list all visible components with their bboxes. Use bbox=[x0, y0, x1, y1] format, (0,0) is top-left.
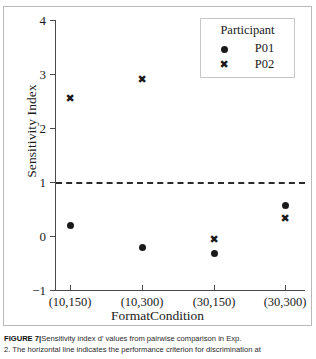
legend-entry-p01: P01 bbox=[205, 40, 290, 56]
caption-figure-number: FIGURE 7 bbox=[4, 334, 39, 343]
y-tick-mark-1 bbox=[50, 182, 55, 183]
x-tick-label-2: (10,300) bbox=[102, 295, 182, 309]
x-tick-label-4: (30,300) bbox=[245, 295, 316, 309]
y-axis-title: Sensitivity Index bbox=[24, 41, 40, 221]
x-axis-title: FormatCondition bbox=[3, 308, 312, 324]
legend: Participant P01 ✖ P02 bbox=[200, 18, 295, 78]
data-point-p02-c1: ✖ bbox=[66, 94, 75, 103]
y-tick-label-4: 4 bbox=[20, 14, 46, 27]
y-tick-mark-2 bbox=[50, 128, 55, 129]
x-axis-line bbox=[55, 290, 305, 291]
performance-criterion-line bbox=[56, 182, 305, 184]
data-point-p01-c3 bbox=[211, 250, 218, 257]
x-tick-label-3: (30,150) bbox=[174, 295, 254, 309]
data-point-p01-c2 bbox=[139, 244, 146, 251]
figure-container: 4 3 2 1 0 −1 Sensitivity Index (10,150) … bbox=[0, 0, 316, 359]
y-axis-line bbox=[55, 20, 56, 290]
legend-label-p01: P01 bbox=[243, 41, 290, 56]
legend-cross-icon: ✖ bbox=[205, 58, 243, 71]
legend-entry-p02: ✖ P02 bbox=[205, 56, 290, 72]
data-point-p02-c3: ✖ bbox=[210, 235, 219, 244]
y-tick-mark-3 bbox=[50, 74, 55, 75]
y-tick-mark-4 bbox=[50, 20, 55, 21]
x-tick-mark-1 bbox=[70, 285, 71, 291]
legend-title: Participant bbox=[205, 23, 290, 38]
figure-caption: FIGURE 7|Sensitivity index d′ values fro… bbox=[4, 333, 312, 355]
x-tick-label-1: (10,150) bbox=[30, 295, 110, 309]
x-tick-mark-4 bbox=[285, 285, 286, 291]
legend-dot-icon bbox=[205, 42, 243, 54]
x-tick-mark-2 bbox=[142, 285, 143, 291]
data-point-p02-c4: ✖ bbox=[281, 214, 290, 223]
y-tick-mark-neg1 bbox=[50, 290, 55, 291]
caption-text-line2: 2. The horizontal line indicates the per… bbox=[4, 344, 312, 355]
x-tick-mark-3 bbox=[214, 285, 215, 291]
caption-text-line1: Sensitivity index d′ values from pairwis… bbox=[41, 334, 241, 343]
data-point-p02-c2: ✖ bbox=[138, 75, 147, 84]
data-point-p01-c1 bbox=[67, 222, 74, 229]
y-tick-mark-0 bbox=[50, 236, 55, 237]
legend-label-p02: P02 bbox=[243, 57, 290, 72]
data-point-p01-c4 bbox=[282, 202, 289, 209]
y-tick-label-0: 0 bbox=[20, 230, 46, 243]
